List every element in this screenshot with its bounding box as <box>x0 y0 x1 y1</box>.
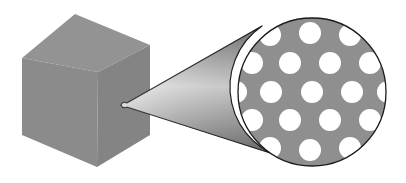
cube <box>22 14 150 167</box>
perforation-hole <box>279 109 301 131</box>
perforation-hole <box>299 139 321 161</box>
perforation-hole <box>241 109 263 131</box>
perforation-hole <box>260 81 282 103</box>
perforation-hole <box>299 22 321 44</box>
cube-front-face <box>22 58 98 167</box>
perforation-hole <box>359 52 381 74</box>
perforation-hole <box>339 24 361 46</box>
perforation-hole <box>259 24 281 46</box>
perforation-hole <box>301 81 323 103</box>
diagram-canvas <box>0 0 406 183</box>
perforation-hole <box>279 52 301 74</box>
perforation-hole <box>319 109 341 131</box>
perforation-hole <box>319 52 341 74</box>
perforation-hole <box>359 109 381 131</box>
perforation-hole <box>377 81 399 103</box>
perforation-hole <box>341 81 363 103</box>
cube-magnification-diagram <box>0 0 406 183</box>
